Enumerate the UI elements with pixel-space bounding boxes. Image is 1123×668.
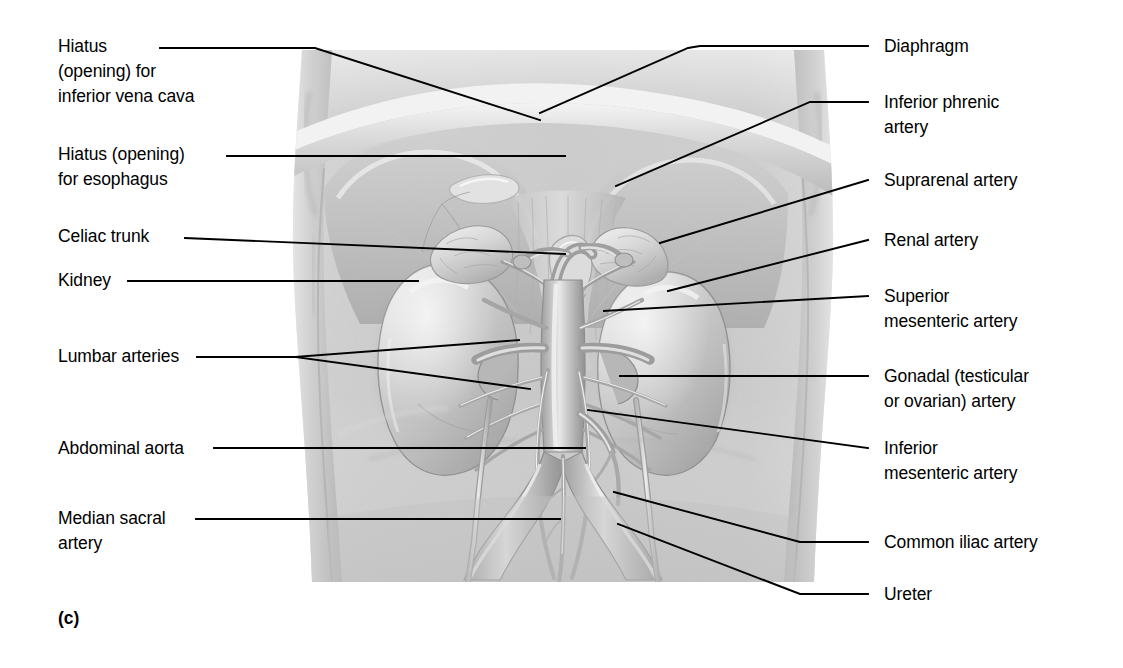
label-inferior-phrenic-artery: Inferior phrenic artery <box>884 90 999 140</box>
label-gonadal-artery: Gonadal (testicular or ovarian) artery <box>884 364 1029 414</box>
label-median-sacral-artery: Median sacral artery <box>58 506 166 556</box>
label-ureter: Ureter <box>884 582 932 607</box>
panel-letter: (c) <box>58 608 79 629</box>
anatomy-figure: Hiatus (opening) for inferior vena cava … <box>0 0 1123 668</box>
label-superior-mesenteric-artery: Superior mesenteric artery <box>884 284 1017 334</box>
label-celiac-trunk: Celiac trunk <box>58 224 149 249</box>
label-hiatus-inferior-vena-cava: Hiatus (opening) for inferior vena cava <box>58 34 194 109</box>
label-renal-artery: Renal artery <box>884 228 978 253</box>
label-suprarenal-artery: Suprarenal artery <box>884 168 1018 193</box>
label-common-iliac-artery: Common iliac artery <box>884 530 1038 555</box>
label-abdominal-aorta: Abdominal aorta <box>58 436 184 461</box>
label-diaphragm: Diaphragm <box>884 34 969 59</box>
label-kidney: Kidney <box>58 268 111 293</box>
abdominal-aorta-illustration <box>268 48 856 584</box>
label-inferior-mesenteric-artery: Inferior mesenteric artery <box>884 436 1017 486</box>
label-hiatus-esophagus: Hiatus (opening) for esophagus <box>58 142 185 192</box>
label-lumbar-arteries: Lumbar arteries <box>58 344 179 369</box>
